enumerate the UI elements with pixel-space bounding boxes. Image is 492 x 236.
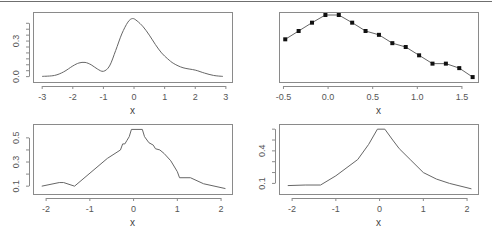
x-tick-label: 2 [193,92,198,102]
series-line [288,129,472,189]
y-tick-label: 0.4 [257,145,267,158]
panel-bottom-right: -2-1012x0.10.4 [257,125,479,229]
x-tick-label: -1 [99,92,107,102]
series-line [42,129,226,188]
x-tick-label: -2 [288,204,296,214]
x-tick-label: -3 [38,92,46,102]
x-axis-label: x [376,217,381,228]
x-tick-label: -2 [42,204,50,214]
panel-top-left: -3-2-10123x0.00.3 [11,13,233,117]
x-tick-label: 1 [162,92,167,102]
x-axis-label: x [130,105,135,116]
x-tick-label: -2 [69,92,77,102]
plot-frame [280,125,479,195]
data-point [377,33,381,37]
data-point [457,66,461,70]
data-point [390,41,394,45]
data-point [283,37,287,41]
data-point [323,13,327,17]
x-tick-label: 1.0 [411,92,424,102]
panel-top-right: -0.50.00.51.01.5x [276,13,479,117]
data-point [444,62,448,66]
y-tick-label: 0.1 [11,180,21,193]
series-line [42,19,223,77]
x-tick-label: 1.5 [456,92,469,102]
x-axis-label: x [130,217,135,228]
y-tick-label: 0.0 [11,70,21,83]
x-tick-label: 1 [421,204,426,214]
y-tick-label: 0.3 [11,156,21,169]
data-point [297,29,301,33]
data-point [337,13,341,17]
data-point [471,75,475,79]
x-axis-label: x [376,105,381,116]
x-tick-label: 3 [223,92,228,102]
y-tick-label: 0.5 [11,132,21,145]
data-point [310,21,314,25]
x-tick-label: 0 [131,204,136,214]
plot-frame [34,125,233,195]
panel-bottom-left: -2-1012x0.10.30.5 [11,125,233,229]
x-tick-label: 0.5 [366,92,379,102]
x-tick-label: -1 [332,204,340,214]
y-tick-label: 0.3 [11,35,21,48]
y-tick-label: 0.1 [257,177,267,190]
plot-frame [280,13,479,83]
x-tick-label: 0 [132,92,137,102]
data-point [404,45,408,49]
x-tick-label: 0 [377,204,382,214]
x-tick-label: 2 [465,204,470,214]
x-tick-label: -1 [86,204,94,214]
x-tick-label: 2 [219,204,224,214]
x-tick-label: -0.5 [276,92,292,102]
data-point [417,53,421,57]
x-tick-label: 1 [175,204,180,214]
data-point [364,29,368,33]
data-point [350,21,354,25]
x-tick-label: 0.0 [322,92,335,102]
figure-canvas: -3-2-10123x0.00.3 -0.50.00.51.01.5x -2-1… [0,0,492,236]
data-point [430,62,434,66]
